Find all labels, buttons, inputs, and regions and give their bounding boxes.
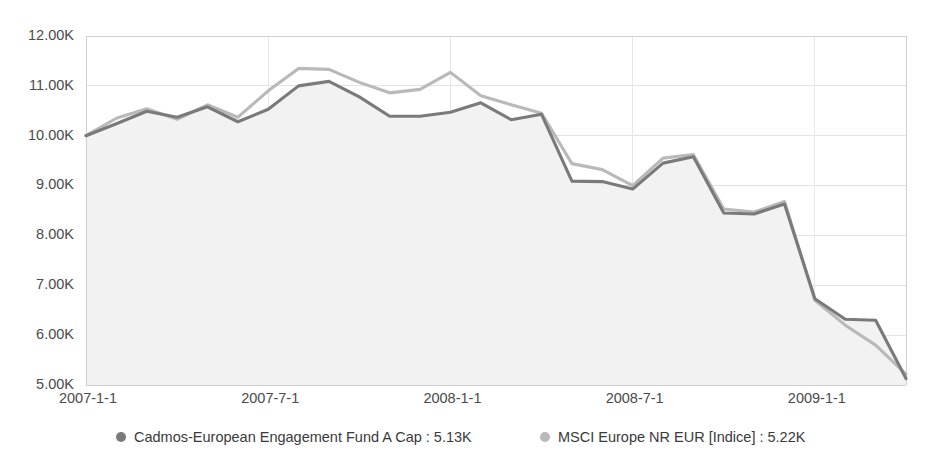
y-tick-label: 7.00K [36, 276, 74, 292]
x-axis-tick-labels: 2007-1-12007-7-12008-1-12008-7-12009-1-1 [59, 390, 846, 406]
legend-item-cadmos-fund[interactable]: Cadmos-European Engagement Fund A Cap : … [116, 429, 472, 445]
y-tick-label: 9.00K [36, 176, 74, 192]
legend-item-label: Cadmos-European Engagement Fund A Cap : … [134, 429, 472, 445]
legend-item-label: MSCI Europe NR EUR [Indice] : 5.22K [558, 429, 806, 445]
y-tick-label: 6.00K [36, 326, 74, 342]
x-tick-label: 2008-1-1 [423, 390, 481, 406]
legend-circle-marker-icon [540, 432, 550, 442]
y-tick-label: 8.00K [36, 226, 74, 242]
chart-legend[interactable]: Cadmos-European Engagement Fund A Cap : … [116, 429, 806, 445]
x-tick-label: 2008-7-1 [606, 390, 664, 406]
legend-circle-marker-icon [116, 432, 126, 442]
x-tick-label: 2007-7-1 [241, 390, 299, 406]
y-tick-label: 10.00K [28, 127, 74, 143]
performance-chart: 5.00K6.00K7.00K8.00K9.00K10.00K11.00K12.… [0, 0, 937, 461]
y-tick-label: 11.00K [29, 77, 74, 93]
chart-canvas: 5.00K6.00K7.00K8.00K9.00K10.00K11.00K12.… [0, 0, 937, 461]
x-tick-label: 2007-1-1 [59, 390, 117, 406]
y-tick-label: 12.00K [28, 27, 74, 43]
legend-item-msci-europe[interactable]: MSCI Europe NR EUR [Indice] : 5.22K [540, 429, 806, 445]
y-axis-tick-labels: 5.00K6.00K7.00K8.00K9.00K10.00K11.00K12.… [28, 27, 74, 392]
x-tick-label: 2009-1-1 [788, 390, 846, 406]
